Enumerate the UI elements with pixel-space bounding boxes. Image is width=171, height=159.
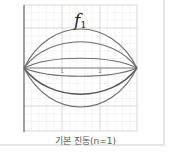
x-tick-1: 1: [60, 68, 63, 74]
curve-amplitude-3: [24, 58, 137, 68]
curve-amplitude-6: [24, 68, 137, 107]
figure-caption: 기본 진동(n=1): [0, 134, 171, 147]
curve-amplitude-4: [24, 68, 137, 76]
x-tick-2: 2: [98, 68, 101, 74]
